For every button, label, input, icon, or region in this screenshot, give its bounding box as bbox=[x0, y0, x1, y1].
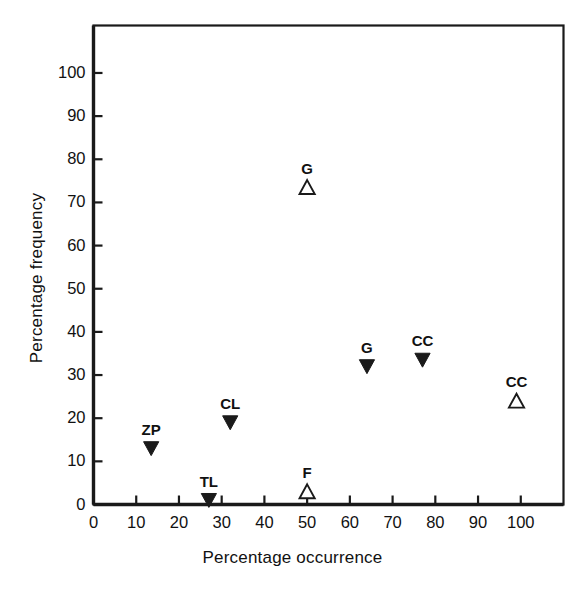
x-tick-label: 90 bbox=[458, 513, 498, 532]
data-marker bbox=[144, 442, 159, 456]
data-marker bbox=[509, 394, 524, 408]
x-tick-label: 80 bbox=[415, 513, 455, 532]
y-tick-label: 100 bbox=[40, 63, 86, 82]
plot-canvas bbox=[0, 0, 585, 591]
data-point-label: CL bbox=[207, 395, 253, 412]
data-point-label: CC bbox=[400, 332, 446, 349]
x-axis-title: Percentage occurrence bbox=[0, 548, 585, 568]
x-tick-label: 20 bbox=[159, 513, 199, 532]
data-marker bbox=[359, 360, 374, 374]
x-tick-label: 100 bbox=[501, 513, 541, 532]
data-marker bbox=[415, 353, 430, 367]
y-axis-title: Percentage frequency bbox=[27, 133, 47, 423]
x-tick-label: 10 bbox=[116, 513, 156, 532]
scatter-plot-figure: 0102030405060708090100 01020304050607080… bbox=[0, 0, 585, 591]
x-tick-label: 70 bbox=[373, 513, 413, 532]
x-tick-label: 40 bbox=[244, 513, 284, 532]
data-point-label: G bbox=[344, 339, 390, 356]
data-point-label: CC bbox=[494, 373, 540, 390]
y-tick-label: 10 bbox=[40, 451, 86, 470]
data-marker bbox=[223, 416, 238, 430]
data-point-label: F bbox=[284, 464, 330, 481]
data-marker bbox=[300, 484, 315, 498]
x-tick-label: 30 bbox=[202, 513, 242, 532]
data-marker bbox=[300, 180, 315, 194]
x-tick-label: 60 bbox=[330, 513, 370, 532]
x-tick-label: 0 bbox=[74, 513, 114, 532]
y-tick-label: 0 bbox=[40, 495, 86, 514]
x-tick-label: 50 bbox=[287, 513, 327, 532]
data-point-label: G bbox=[284, 160, 330, 177]
data-point-label: TL bbox=[186, 473, 232, 490]
y-tick-label: 90 bbox=[40, 106, 86, 125]
data-markers bbox=[144, 180, 525, 507]
axis-ticks bbox=[94, 73, 521, 505]
data-point-label: ZP bbox=[128, 421, 174, 438]
